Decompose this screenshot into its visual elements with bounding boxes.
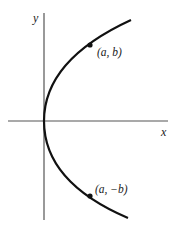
point-label-a-b: (a, b): [97, 46, 122, 59]
point-a-b: [87, 42, 92, 47]
parabola-diagram: y x (a, b) (a, −b): [0, 0, 179, 235]
x-axis-label: x: [160, 125, 167, 139]
point-a-neg-b: [87, 193, 92, 198]
y-axis-label: y: [32, 11, 39, 25]
point-label-a-neg-b: (a, −b): [95, 183, 128, 196]
